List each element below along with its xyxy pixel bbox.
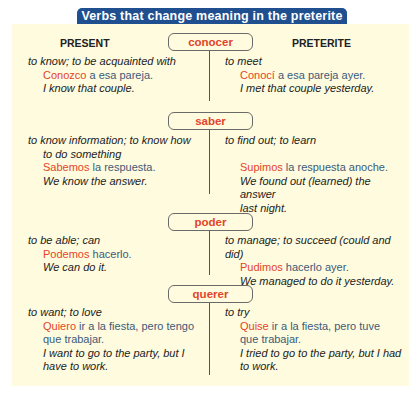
divider-line — [209, 130, 210, 194]
verb-label-querer: querer — [168, 285, 253, 303]
present-block-poder: to be able; can Podemos hacerlo. We can … — [28, 234, 206, 275]
divider-line — [209, 51, 210, 101]
preterite-block-saber: to find out; to learn Supimos la respues… — [225, 134, 409, 215]
preterite-column-header: PRETERITE — [292, 37, 351, 49]
verb-label-poder: poder — [168, 213, 253, 231]
verb-label-conocer: conocer — [168, 33, 253, 51]
present-block-querer: to want; to love Quiero ir a la fiesta, … — [28, 306, 206, 374]
verb-label-saber: saber — [168, 112, 253, 130]
divider-line — [209, 231, 210, 275]
present-column-header: PRESENT — [60, 37, 110, 49]
present-block-conocer: to know; to be acquainted with Conozco a… — [28, 55, 206, 96]
preterite-block-querer: to try Quise ir a la fiesta, pero tuve q… — [225, 306, 409, 374]
present-block-saber: to know information; to know how to do s… — [28, 134, 206, 188]
preterite-block-conocer: to meet Conocí a esa pareja ayer. I met … — [225, 55, 409, 96]
divider-line — [209, 303, 210, 375]
preterite-block-poder: to manage; to succeed (could and did) Pu… — [225, 234, 409, 288]
table-title: Verbs that change meaning in the preteri… — [77, 8, 347, 25]
